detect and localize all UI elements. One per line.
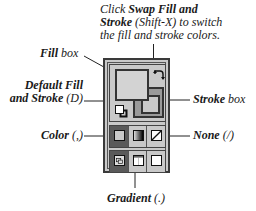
standard-mode-icon [114,155,125,166]
color-swatch-icon [114,130,125,141]
swap-fill-stroke-icon[interactable] [153,69,165,81]
label-bold: Default Fill [25,78,83,92]
standard-screen-mode-button[interactable] [110,151,129,172]
panel-inner [107,62,166,169]
screen-mode-row [109,150,166,173]
fill-box[interactable] [115,69,149,101]
label-gradient: Gradient (.) [107,192,165,205]
fullscreen-menu-mode-button[interactable] [129,151,148,172]
label-none: None (/) [193,129,234,142]
color-button[interactable] [110,126,129,147]
default-fill-stroke-icon[interactable] [115,105,128,118]
label-text: box [225,92,245,106]
fullscreen-mode-button[interactable] [147,151,165,172]
fill-stroke-panel [103,58,170,173]
label-bold: Stroke [193,92,225,106]
label-default-fill-stroke: Default Fill and Stroke (D) [10,79,83,105]
label-stroke-box: Stroke box [193,93,245,106]
color-mode-row [109,125,166,148]
fullscreen-icon [151,155,162,166]
fullscreen-menu-icon [133,155,144,166]
label-color: Color (,) [41,129,83,142]
none-button[interactable] [147,126,165,147]
none-swatch-icon [151,130,162,141]
gradient-button[interactable] [129,126,148,147]
fill-stroke-area [109,64,166,122]
gradient-swatch-icon [133,130,144,141]
